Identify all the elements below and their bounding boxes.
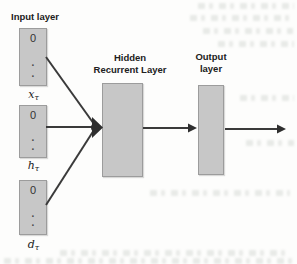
- hidden-layer-box: [102, 83, 143, 177]
- label-subscript: τ: [34, 93, 38, 102]
- hidden-layer-title-line2: Recurrent Layer: [84, 64, 176, 76]
- input-label-h-tau: hτ: [19, 160, 48, 175]
- hidden-layer-title-line1: Hidden: [84, 52, 176, 64]
- arrowhead-output-to-result: [277, 125, 286, 134]
- output-layer-title: Output layer: [186, 51, 236, 75]
- arrow-d-to-hidden: [46, 130, 94, 205]
- convergence-blob: [91, 124, 99, 132]
- input-box-x-value: 0: [20, 32, 46, 44]
- output-layer-title-line2: layer: [186, 63, 236, 75]
- input-box-d-value: 0: [20, 184, 46, 196]
- output-layer-box: [198, 85, 224, 175]
- label-subscript: τ: [35, 243, 39, 252]
- rnn-architecture-diagram: Input layer Hidden Recurrent Layer Outpu…: [0, 0, 297, 264]
- bleed-through-texture: [240, 95, 294, 101]
- bleed-through-texture: [60, 250, 290, 256]
- bleed-through-texture: [198, 3, 294, 9]
- label-base: h: [28, 159, 35, 172]
- output-layer-title-line1: Output: [186, 51, 236, 63]
- ellipsis-dot: .: [20, 61, 46, 65]
- label-base: d: [28, 238, 35, 251]
- bleed-through-texture: [150, 190, 290, 196]
- input-box-h: 0 . .: [19, 105, 47, 158]
- input-label-d-tau: dτ: [19, 239, 48, 254]
- ellipsis-dot: .: [20, 212, 46, 216]
- input-box-h-value: 0: [20, 109, 46, 121]
- bleed-through-texture: [4, 258, 292, 264]
- input-box-d: 0 . .: [19, 180, 47, 235]
- bleed-through-texture: [246, 140, 294, 146]
- input-layer-title: Input layer: [11, 11, 59, 23]
- bleed-through-texture: [218, 41, 294, 47]
- ellipsis-dot: .: [20, 136, 46, 140]
- arrowhead-hidden-to-output: [188, 124, 197, 133]
- bleed-through-texture: [190, 15, 294, 21]
- ellipsis-dot: .: [20, 221, 46, 225]
- ellipsis-dot: .: [20, 145, 46, 149]
- input-box-x: 0 . .: [19, 28, 47, 86]
- label-subscript: τ: [35, 164, 39, 173]
- input-label-x-tau: xτ: [19, 89, 48, 104]
- ellipsis-dot: .: [20, 72, 46, 76]
- hidden-layer-title: Hidden Recurrent Layer: [84, 52, 176, 76]
- bleed-through-texture: [203, 28, 293, 34]
